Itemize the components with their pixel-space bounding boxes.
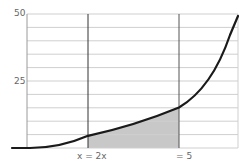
- chart-plot: [0, 0, 251, 166]
- y-tick-50: 50: [14, 9, 25, 18]
- marker-label-2: = 5: [176, 152, 192, 161]
- y-tick-25: 25: [14, 77, 25, 86]
- marker-label-1: x = 2x: [77, 152, 107, 161]
